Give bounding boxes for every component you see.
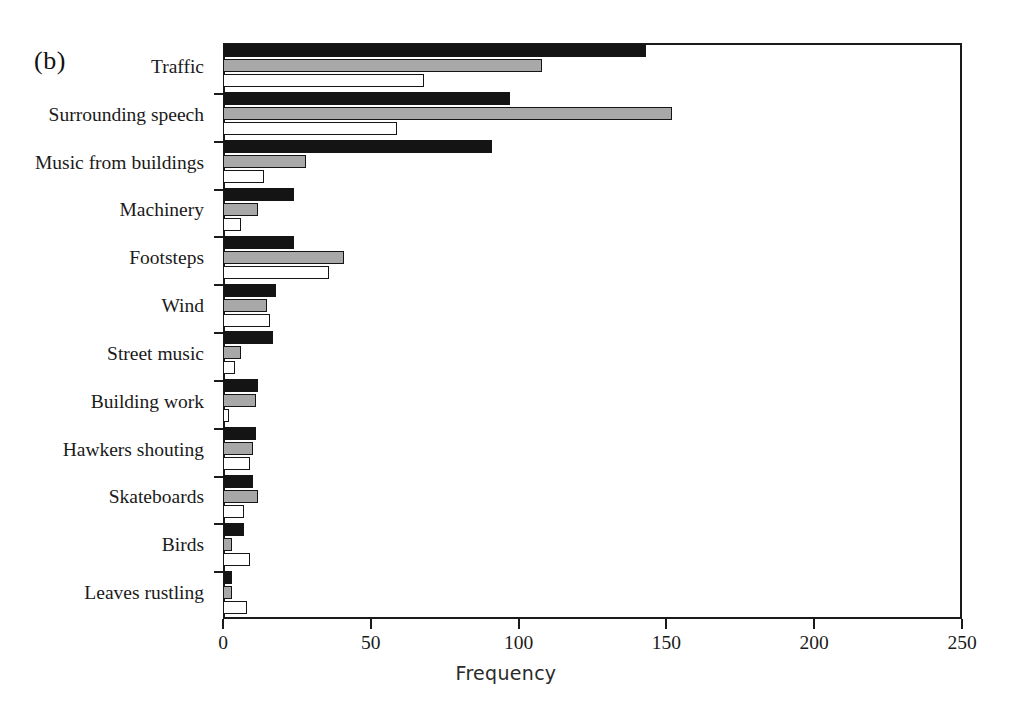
- x-axis-title: Frequency: [0, 662, 1012, 684]
- category-label: Footsteps: [0, 247, 214, 269]
- bar: [223, 427, 256, 440]
- bar: [223, 601, 247, 614]
- bar: [223, 505, 244, 518]
- bar: [223, 571, 232, 584]
- category-label: Machinery: [0, 199, 214, 221]
- bar-group: [223, 428, 962, 476]
- x-axis-tick-label: 150: [636, 632, 696, 654]
- bar: [223, 284, 276, 297]
- bar: [223, 74, 424, 87]
- category-label: Building work: [0, 391, 214, 413]
- bar: [223, 188, 294, 201]
- category-label: Surrounding speech: [0, 104, 214, 126]
- category-label: Wind: [0, 295, 214, 317]
- bar: [223, 409, 229, 422]
- bar: [223, 331, 273, 344]
- bar-group: [223, 571, 962, 619]
- bar-group: [223, 284, 962, 332]
- bar-group: [223, 45, 962, 93]
- y-axis-tick: [214, 284, 223, 286]
- x-axis-tick-label: 100: [489, 632, 549, 654]
- y-axis-tick: [214, 332, 223, 334]
- bar: [223, 361, 235, 374]
- x-axis-tick: [813, 619, 815, 629]
- bar: [223, 475, 253, 488]
- bar-group: [223, 141, 962, 189]
- x-axis-tick-label: 200: [784, 632, 844, 654]
- category-label: Street music: [0, 343, 214, 365]
- y-axis-tick: [214, 428, 223, 430]
- bar: [223, 203, 258, 216]
- category-axis-labels: TrafficSurrounding speechMusic from buil…: [0, 0, 214, 712]
- bar: [223, 251, 344, 264]
- category-label: Traffic: [0, 56, 214, 78]
- bar-group: [223, 380, 962, 428]
- bar: [223, 299, 267, 312]
- y-axis-tick: [214, 93, 223, 95]
- x-axis-tick: [665, 619, 667, 629]
- bar: [223, 553, 250, 566]
- bar: [223, 140, 492, 153]
- bar: [223, 586, 232, 599]
- category-label: Music from buildings: [0, 152, 214, 174]
- y-axis-tick: [214, 380, 223, 382]
- bar: [223, 122, 397, 135]
- y-axis-tick: [214, 189, 223, 191]
- y-axis-tick: [214, 571, 223, 573]
- x-axis-tick-label: 50: [341, 632, 401, 654]
- bar: [223, 379, 258, 392]
- bar: [223, 442, 253, 455]
- bar-group: [223, 476, 962, 524]
- y-axis-tick: [214, 236, 223, 238]
- bar: [223, 490, 258, 503]
- bar: [223, 155, 306, 168]
- bar: [223, 346, 241, 359]
- category-label: Birds: [0, 534, 214, 556]
- bar: [223, 44, 646, 57]
- bar: [223, 523, 244, 536]
- y-axis-tick: [214, 141, 223, 143]
- bar: [223, 314, 270, 327]
- bar: [223, 266, 329, 279]
- x-axis-tick: [370, 619, 372, 629]
- bar: [223, 236, 294, 249]
- bar: [223, 107, 672, 120]
- x-axis-tick: [961, 619, 963, 629]
- bars-layer: [223, 45, 962, 619]
- bar-group: [223, 236, 962, 284]
- category-label: Skateboards: [0, 486, 214, 508]
- x-axis-tick-label: 0: [193, 632, 253, 654]
- bar: [223, 92, 510, 105]
- bar-group: [223, 93, 962, 141]
- x-axis-tick: [518, 619, 520, 629]
- bar: [223, 170, 264, 183]
- bar: [223, 394, 256, 407]
- bar-group: [223, 332, 962, 380]
- bar-group: [223, 189, 962, 237]
- category-label: Hawkers shouting: [0, 439, 214, 461]
- x-axis-tick: [222, 619, 224, 629]
- bar: [223, 218, 241, 231]
- y-axis-tick: [214, 476, 223, 478]
- bar: [223, 59, 542, 72]
- bar: [223, 538, 232, 551]
- bar-group: [223, 523, 962, 571]
- x-axis-tick-label: 250: [932, 632, 992, 654]
- category-label: Leaves rustling: [0, 582, 214, 604]
- bar: [223, 457, 250, 470]
- y-axis-tick: [214, 523, 223, 525]
